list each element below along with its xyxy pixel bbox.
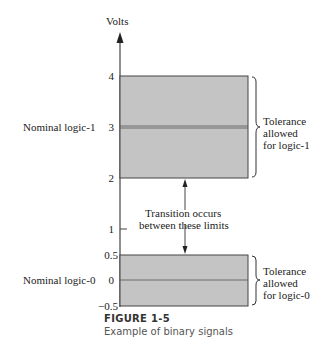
- tolerance-1-line1: Tolerance: [263, 115, 306, 127]
- tolerance-1-line3: for logic-1: [263, 139, 310, 151]
- arrow-down-icon: [183, 246, 188, 254]
- figure-title: FIGURE 1-5: [104, 313, 170, 324]
- tick-label: −0.5: [88, 300, 118, 312]
- figure-caption: Example of binary signals: [104, 326, 233, 337]
- arrow-up-icon: [183, 179, 188, 187]
- tolerance-0-line1: Tolerance: [263, 265, 306, 277]
- transition-label-line1: Transition occurs: [145, 207, 221, 219]
- logic-1-band: [120, 76, 248, 178]
- tolerance-0-line3: for logic-0: [263, 289, 310, 301]
- tick-label: 4: [84, 70, 114, 82]
- tolerance-0-line2: allowed: [263, 277, 298, 289]
- tick-label: 1: [84, 223, 114, 235]
- tick-label: 0.5: [88, 249, 118, 261]
- transition-label-line2: between these limits: [139, 219, 229, 231]
- nominal-logic-0-label: Nominal logic-0: [23, 274, 95, 286]
- binary-signal-diagram: [0, 0, 332, 356]
- logic-0-band: [120, 255, 248, 306]
- nominal-logic-1-label: Nominal logic-1: [23, 121, 95, 133]
- axis-arrow-icon: [117, 32, 124, 43]
- brace-logic-1-icon: [252, 77, 260, 177]
- axis-label: Volts: [106, 15, 128, 27]
- tolerance-1-line2: allowed: [263, 127, 298, 139]
- brace-logic-0-icon: [252, 256, 260, 305]
- tick-label: 2: [84, 172, 114, 184]
